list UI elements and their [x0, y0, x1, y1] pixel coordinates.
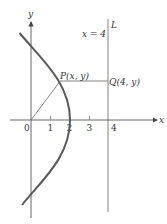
x-axis-label: x — [159, 115, 164, 125]
tick-label-1: 1 — [48, 123, 54, 133]
line-L-equation: x = 4 — [82, 29, 106, 39]
parabola-curve — [20, 33, 70, 205]
y-axis-label: y — [27, 9, 34, 19]
tick-label-4: 4 — [111, 123, 117, 133]
point-Q-label: Q(4, y) — [109, 77, 140, 87]
tick-label-3: 3 — [87, 123, 93, 133]
point-P-label: P(x, y) — [59, 71, 89, 81]
parabola-diagram: y x 0 1 2 3 4 L x = 4 P(x, y) Q(4, y) — [0, 0, 167, 224]
segment-OP — [31, 81, 60, 120]
line-L-label: L — [110, 20, 117, 30]
tick-label-0: 0 — [24, 123, 30, 133]
